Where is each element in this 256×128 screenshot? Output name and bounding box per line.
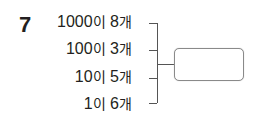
count: 8 — [110, 13, 119, 30]
unit: 개 — [119, 14, 132, 30]
place-value-row-tens: 10이 5개 — [75, 69, 132, 85]
unit: 개 — [119, 96, 132, 112]
bracket-tick — [149, 23, 157, 24]
particle: 이 — [93, 96, 106, 112]
bracket-tick — [149, 78, 157, 79]
count: 6 — [110, 95, 119, 112]
particle: 이 — [93, 69, 106, 85]
count: 3 — [110, 40, 119, 57]
particle: 이 — [93, 14, 106, 30]
unit: 개 — [119, 69, 132, 85]
bracket-line — [157, 23, 158, 103]
particle: 이 — [93, 41, 106, 57]
place-value: 10 — [75, 68, 93, 85]
place-value-row-hundreds: 100이 3개 — [66, 41, 132, 57]
place-value-row-thousands: 1000이 8개 — [57, 14, 132, 30]
place-value: 1 — [84, 95, 93, 112]
unit: 개 — [119, 41, 132, 57]
place-value: 100 — [66, 40, 93, 57]
bracket-tick — [149, 50, 157, 51]
bracket-connector — [157, 64, 174, 65]
place-value: 1000 — [57, 13, 93, 30]
answer-box[interactable] — [174, 48, 244, 81]
count: 5 — [110, 68, 119, 85]
place-value-row-ones: 1이 6개 — [84, 96, 132, 112]
bracket-tick — [149, 103, 157, 104]
problem-number: 7 — [19, 14, 31, 36]
